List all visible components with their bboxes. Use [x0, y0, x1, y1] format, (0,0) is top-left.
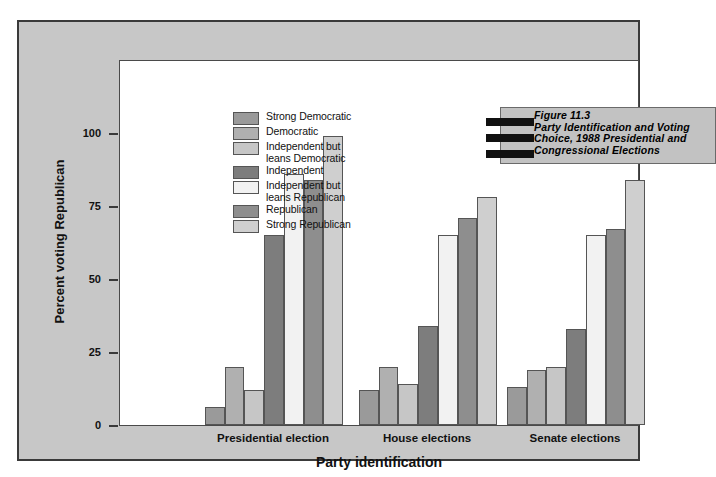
legend-swatch-icon	[233, 220, 259, 233]
bar	[359, 390, 379, 425]
legend-swatch-icon	[233, 166, 259, 179]
legend-item: Republican	[233, 204, 423, 218]
bar	[418, 326, 438, 425]
y-tick-label: 25	[67, 346, 101, 358]
legend-swatch-icon	[233, 127, 259, 140]
bar	[477, 197, 497, 425]
bar	[225, 367, 245, 425]
y-tick-label: 50	[67, 273, 101, 285]
y-tick-mark	[109, 352, 118, 354]
bar	[546, 367, 566, 425]
legend-item-label: Democratic	[266, 126, 318, 138]
plot-area: Strong DemocraticDemocraticIndependent b…	[119, 60, 639, 426]
title-bar-3	[486, 150, 534, 158]
bar	[586, 235, 606, 425]
legend-item: Strong Republican	[233, 219, 423, 233]
bar	[606, 229, 626, 425]
chart-legend: Strong DemocraticDemocraticIndependent b…	[233, 111, 423, 234]
legend-item-label: Strong Democratic	[266, 111, 351, 123]
legend-item-label: Strong Republican	[266, 219, 351, 231]
y-tick-mark	[109, 133, 118, 135]
legend-item-label: Independent	[266, 165, 323, 177]
title-bar-2	[486, 134, 534, 142]
bar	[438, 235, 458, 425]
legend-item: Strong Democratic	[233, 111, 423, 125]
y-tick-label: 75	[67, 200, 101, 212]
bar	[398, 384, 418, 425]
y-tick-label: 0	[67, 419, 101, 431]
legend-swatch-icon	[233, 112, 259, 125]
bar	[566, 329, 586, 425]
legend-item: Democratic	[233, 126, 423, 140]
figure-title-text: Figure 11.3 Party Identification and Vot…	[534, 110, 716, 156]
y-tick-label: 100	[67, 127, 101, 139]
y-tick-mark	[109, 279, 118, 281]
title-bar-1	[486, 118, 534, 126]
y-axis-title: Percent voting Republican	[52, 92, 67, 392]
legend-swatch-icon	[233, 142, 259, 155]
bar	[458, 218, 478, 425]
title-decoration-bars	[486, 118, 534, 158]
bar	[205, 407, 225, 425]
y-tick-mark	[109, 425, 118, 427]
bar	[507, 387, 527, 425]
bar	[527, 370, 547, 425]
bar	[244, 390, 264, 425]
bar	[379, 367, 399, 425]
figure-outer-frame: Percent voting Republican 0255075100 Str…	[17, 20, 640, 461]
legend-item: Independent but leans Republican	[233, 180, 423, 203]
legend-swatch-icon	[233, 205, 259, 218]
y-tick-mark	[109, 206, 118, 208]
bar	[625, 180, 645, 425]
legend-item-label: Independent but leans Republican	[266, 180, 345, 203]
x-axis-title: Party identification	[119, 454, 639, 470]
legend-item-label: Independent but leans Democratic	[266, 141, 346, 164]
legend-item: Independent	[233, 165, 423, 179]
legend-item: Independent but leans Democratic	[233, 141, 423, 164]
x-axis-group-label: Senate elections	[476, 432, 674, 444]
legend-item-label: Republican	[266, 204, 318, 216]
legend-swatch-icon	[233, 181, 259, 194]
bar	[264, 235, 284, 425]
